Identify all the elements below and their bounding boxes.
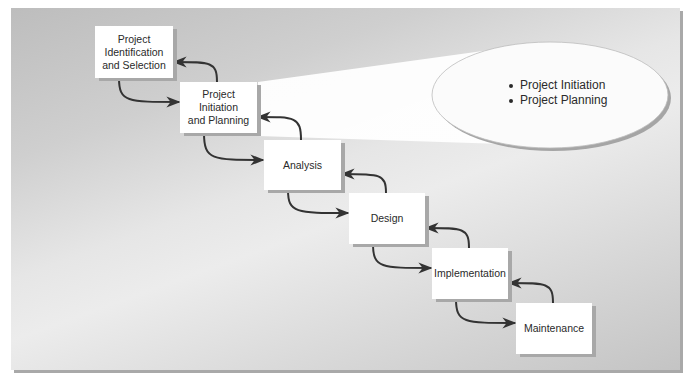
phase-label: Project Initiation and Planning xyxy=(188,88,249,127)
phase-label: Design xyxy=(371,212,404,225)
callout-bullet-list: Project Initiation Project Planning xyxy=(508,78,607,108)
forward-arrow-icon xyxy=(373,244,431,268)
forward-arrow-icon xyxy=(288,190,348,213)
phase-box-project-identification-and-selection: Project Identification and Selection xyxy=(95,26,173,78)
phase-box-analysis: Analysis xyxy=(264,140,341,190)
phase-box-project-initiation-and-planning: Project Initiation and Planning xyxy=(180,82,257,133)
callout-item: Project Initiation xyxy=(508,78,607,93)
phase-label: Maintenance xyxy=(524,322,584,335)
phase-box-maintenance: Maintenance xyxy=(516,303,592,354)
forward-arrow-icon xyxy=(456,299,515,323)
feedback-arrow-icon xyxy=(174,62,217,82)
feedback-arrow-icon xyxy=(342,174,386,193)
forward-arrow-icon xyxy=(204,133,263,160)
feedback-arrow-icon xyxy=(509,283,553,303)
phase-label: Analysis xyxy=(283,159,322,172)
callout-item: Project Planning xyxy=(508,93,607,108)
phase-label: Project Identification and Selection xyxy=(102,33,166,72)
feedback-arrow-icon xyxy=(426,228,469,248)
phase-label: Implementation xyxy=(434,267,506,280)
phase-box-design: Design xyxy=(349,193,425,244)
forward-arrow-icon xyxy=(119,78,179,102)
phase-box-implementation: Implementation xyxy=(432,248,508,299)
